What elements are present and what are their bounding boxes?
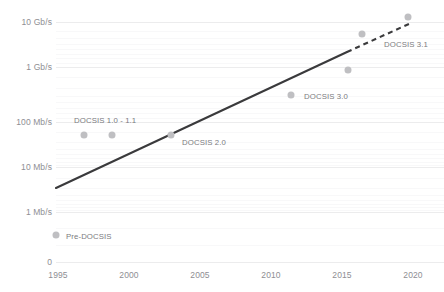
label-docsis-1: DOCSIS 1.0 - 1.1 (74, 116, 136, 125)
label-docsis-2: DOCSIS 2.0 (182, 138, 226, 147)
docsis-speed-chart: 10 Gb/s1 Gb/s100 Mb/s10 Mb/s1 Mb/s0 1995… (0, 0, 444, 292)
point-labels: Pre-DOCSISDOCSIS 1.0 - 1.1DOCSIS 2.0DOCS… (0, 0, 444, 292)
label-docsis-3: DOCSIS 3.0 (304, 92, 348, 101)
label-docsis-31: DOCSIS 3.1 (384, 40, 428, 49)
label-pre-docsis: Pre-DOCSIS (66, 232, 112, 241)
